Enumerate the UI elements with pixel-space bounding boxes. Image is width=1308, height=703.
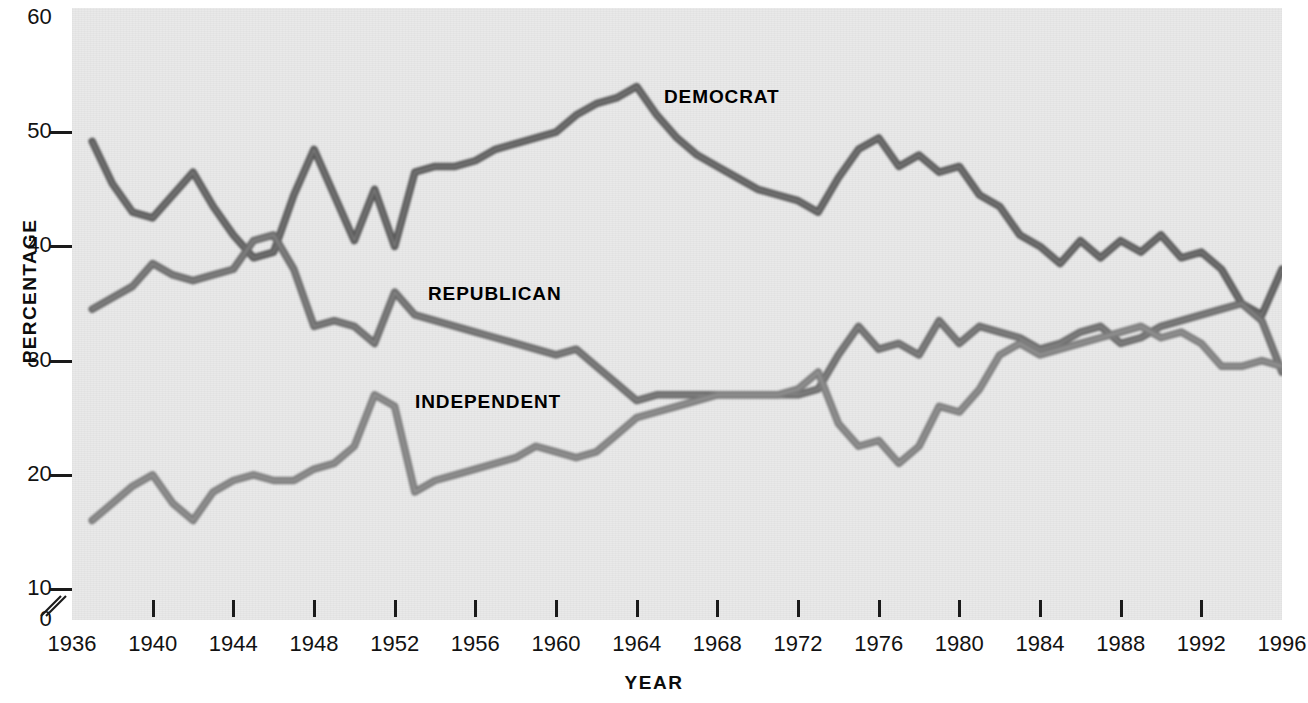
axis-break-icon [40, 592, 76, 622]
x-tick-mark-1968 [716, 600, 719, 617]
x-tick-mark-1980 [958, 600, 961, 617]
x-tick-mark-1944 [232, 600, 235, 617]
x-tick-mark-1956 [474, 600, 477, 617]
x-tick-mark-1992 [1200, 600, 1203, 617]
x-tick-mark-1984 [1039, 600, 1042, 617]
x-axis-title: YEAR [0, 672, 1308, 694]
y-tick-mark-30 [50, 360, 72, 363]
y-tick-label-60: 60 [6, 6, 52, 28]
series-label-democrat: DEMOCRAT [664, 86, 780, 108]
y-tick-mark-20 [50, 474, 72, 477]
x-tick-mark-1960 [555, 600, 558, 617]
x-tick-mark-1952 [394, 600, 397, 617]
x-tick-mark-1948 [313, 600, 316, 617]
x-tick-mark-1972 [797, 600, 800, 617]
x-tick-mark-1988 [1120, 600, 1123, 617]
y-tick-label-20: 20 [6, 463, 52, 485]
y-tick-mark-50 [50, 131, 72, 134]
y-axis-title: PERCENTAGE [19, 191, 41, 391]
x-tick-mark-1940 [152, 600, 155, 617]
chart-root: DEMOCRAT REPUBLICAN INDEPENDENT 01020304… [0, 0, 1308, 703]
series-label-republican: REPUBLICAN [428, 283, 562, 305]
series-line-independent [92, 326, 1282, 520]
series-label-independent: INDEPENDENT [415, 391, 561, 413]
x-tick-label-1996: 1996 [1234, 632, 1308, 656]
series-line-democrat [92, 87, 1282, 315]
y-tick-label-50: 50 [6, 120, 52, 142]
x-tick-mark-1964 [636, 600, 639, 617]
series-line-core-democrat [92, 87, 1282, 315]
plot-area: DEMOCRAT REPUBLICAN INDEPENDENT [72, 8, 1282, 620]
x-tick-mark-1976 [878, 600, 881, 617]
y-tick-mark-10 [50, 588, 72, 591]
y-tick-mark-40 [50, 245, 72, 248]
series-line-core-independent [92, 326, 1282, 520]
